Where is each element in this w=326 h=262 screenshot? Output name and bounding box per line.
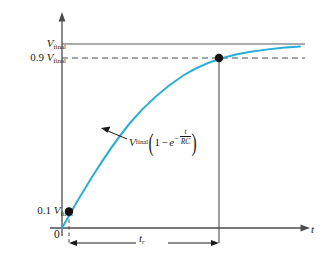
- equation-minus: −: [160, 137, 169, 148]
- marker-90-percent: [215, 54, 223, 62]
- label-rise-time-subscript: r: [142, 238, 145, 245]
- label-vfinal-10: 0.1 Vfinal: [37, 205, 73, 218]
- label-vfinal-10-prefix: 0.1: [37, 204, 54, 216]
- label-vfinal-90: 0.9 Vfinal: [30, 52, 66, 65]
- label-vfinal-subscript: final: [54, 42, 66, 49]
- equation-amplitude-subscript: final: [136, 139, 148, 146]
- equation-exponent-minus: −: [174, 135, 179, 143]
- label-vfinal-90-subscript: final: [54, 56, 66, 63]
- equation-close-paren: ): [192, 133, 197, 153]
- rise-time-arrow-right: [211, 240, 219, 246]
- label-vfinal-10-symbol: V: [54, 204, 61, 216]
- rc-rise-time-figure: Vfinal 0.9 Vfinal 0.1 Vfinal 0 t tr Vfin…: [0, 0, 326, 262]
- label-vfinal-90-prefix: 0.9: [30, 51, 47, 63]
- equation-exponent: −tRC: [174, 128, 191, 151]
- rise-time-arrow-left: [69, 240, 77, 246]
- label-vfinal-10-subscript: final: [61, 209, 73, 216]
- label-vfinal: Vfinal: [47, 38, 66, 51]
- y-axis-arrowhead: [59, 12, 66, 22]
- equation-exponent-denominator: RC: [180, 138, 192, 146]
- equation-exponent-fraction: tRC: [180, 128, 192, 146]
- label-curve-equation: Vfinal(1−e−tRC): [129, 131, 198, 154]
- label-x-axis: t: [311, 224, 314, 235]
- label-origin: 0: [54, 229, 60, 241]
- x-axis-arrowhead: [301, 225, 311, 232]
- label-vfinal-90-symbol: V: [47, 51, 54, 63]
- equation-amplitude-symbol: V: [129, 137, 136, 148]
- label-vfinal-symbol: V: [47, 37, 54, 49]
- equation-open-paren: (: [149, 133, 154, 153]
- equation-exponent-numerator: t: [183, 128, 187, 136]
- label-rise-time: tr: [139, 233, 145, 246]
